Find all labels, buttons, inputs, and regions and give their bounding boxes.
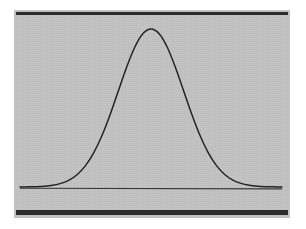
horizontal-axis-line (20, 188, 282, 189)
figure-root (0, 0, 306, 229)
bell-curve-plot (0, 0, 306, 229)
normal-distribution-curve (20, 29, 282, 187)
